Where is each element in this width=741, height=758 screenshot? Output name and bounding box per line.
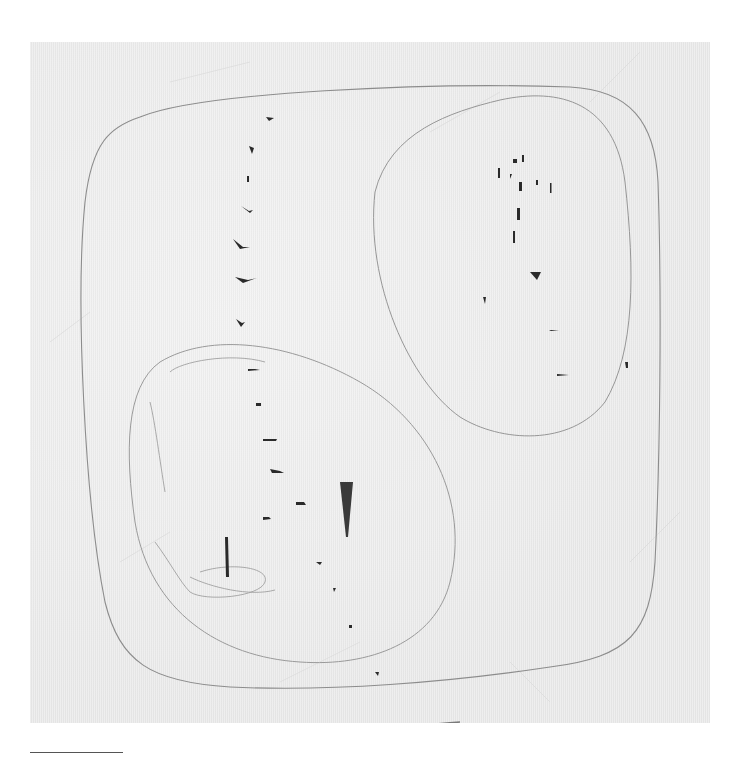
outer-incised-line	[81, 86, 660, 689]
punctures-left-column	[233, 117, 284, 473]
caption-rule	[30, 752, 123, 753]
artwork-canvas	[30, 42, 710, 723]
lower-left-oval	[129, 345, 455, 663]
punctures-right-group	[483, 155, 628, 376]
punctures-lower-group	[225, 482, 379, 676]
scribble-loops	[150, 358, 275, 597]
upper-right-oval	[374, 96, 631, 436]
brush-strokes	[50, 52, 680, 702]
artwork-drawing	[30, 42, 710, 723]
bottom-incised-line	[245, 722, 460, 723]
